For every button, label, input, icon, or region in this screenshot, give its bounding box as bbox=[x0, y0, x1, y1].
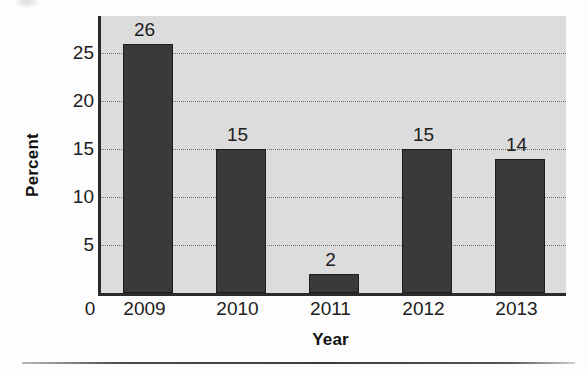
x-axis-tick-2013: 2013 bbox=[472, 299, 562, 318]
bottom-divider-rule bbox=[22, 362, 575, 364]
x-axis-tick-2011: 2011 bbox=[286, 299, 376, 318]
y-axis-tick-5: 5 bbox=[50, 235, 94, 254]
bar-value-label-2011: 2 bbox=[291, 250, 371, 269]
bar-2009[interactable] bbox=[123, 44, 173, 293]
y-axis-tick-25: 25 bbox=[50, 43, 94, 62]
bar-2012[interactable] bbox=[402, 149, 452, 293]
bar-chart-figure: Percent 510152025 0 20092010201120122013… bbox=[0, 0, 587, 373]
bar-value-label-2013: 14 bbox=[477, 135, 557, 154]
x-axis-tick-2009: 2009 bbox=[100, 299, 190, 318]
y-axis-title: Percent bbox=[23, 110, 43, 220]
x-axis-tick-2012: 2012 bbox=[379, 299, 469, 318]
bar-value-label-2009: 26 bbox=[105, 20, 185, 39]
bar-2010[interactable] bbox=[216, 149, 266, 293]
y-axis-tick-15: 15 bbox=[50, 139, 94, 158]
bar-2013[interactable] bbox=[495, 159, 545, 293]
y-axis-tick-20: 20 bbox=[50, 91, 94, 110]
y-axis-origin-label: 0 bbox=[78, 299, 102, 318]
y-axis-tick-10: 10 bbox=[50, 187, 94, 206]
bar-2011[interactable] bbox=[309, 274, 359, 293]
bar-value-label-2012: 15 bbox=[384, 125, 464, 144]
bar-value-label-2010: 15 bbox=[198, 125, 278, 144]
x-axis-title: Year bbox=[98, 330, 563, 350]
x-axis-tick-2010: 2010 bbox=[193, 299, 283, 318]
